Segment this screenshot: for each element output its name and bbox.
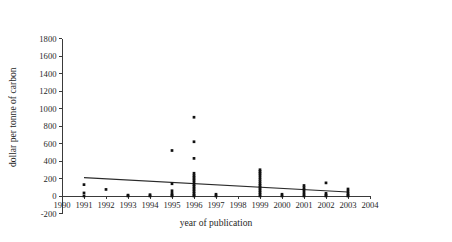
y-axis-title: dollar per tonne of carbon (7, 67, 18, 167)
data-point (347, 195, 350, 198)
data-point (325, 182, 328, 185)
x-axis-title: year of publication (180, 217, 253, 228)
x-tick-label: 1991 (75, 200, 92, 210)
y-tick-label: -200 (41, 209, 57, 219)
data-point (127, 195, 130, 198)
y-tick-label: 1800 (39, 34, 56, 44)
x-tick-label: 1996 (185, 200, 203, 210)
x-tick-label: 2000 (273, 200, 290, 210)
y-tick-label: 1200 (39, 86, 56, 96)
data-point (171, 182, 174, 185)
regression-line (84, 178, 348, 192)
data-point (83, 195, 86, 198)
data-point (193, 157, 196, 160)
y-tick-label: 1400 (39, 69, 56, 79)
data-point (171, 149, 174, 152)
data-point (171, 189, 174, 192)
trend-line (84, 178, 348, 192)
x-tick-label: 2004 (361, 200, 379, 210)
y-tick-label: 800 (44, 121, 57, 131)
x-tick-label: 1993 (119, 200, 136, 210)
x-tick-label: 1992 (97, 200, 114, 210)
data-point (83, 183, 86, 186)
data-point (193, 140, 196, 143)
data-point (215, 195, 218, 198)
x-tick-label: 1995 (163, 200, 180, 210)
y-tick-label: 400 (44, 156, 57, 166)
data-point (281, 195, 284, 198)
data-point (171, 195, 174, 198)
scatter-chart: -200020040060080010001200140016001800 19… (0, 0, 452, 242)
y-axis: -200020040060080010001200140016001800 (39, 34, 62, 219)
data-point (193, 195, 196, 198)
data-point (83, 192, 86, 195)
data-point (105, 188, 108, 191)
data-point (193, 116, 196, 119)
data-point (325, 195, 328, 198)
y-tick-label: 1000 (39, 104, 56, 114)
x-tick-label: 2001 (295, 200, 312, 210)
x-tick-label: 1994 (141, 200, 159, 210)
y-tick-label: 1600 (39, 51, 56, 61)
x-tick-label: 1999 (251, 200, 268, 210)
data-point (303, 195, 306, 198)
x-tick-label: 1998 (229, 200, 246, 210)
x-tick-label: 1997 (207, 200, 225, 210)
plot-area: -200020040060080010001200140016001800 19… (0, 0, 452, 242)
data-point (259, 195, 262, 198)
y-tick-label: 200 (44, 174, 57, 184)
data-point (149, 195, 152, 198)
x-axis: 1990199119921993199419951996199719981999… (53, 196, 379, 210)
x-tick-label: 2002 (317, 200, 334, 210)
y-tick-label: 600 (44, 139, 57, 149)
x-tick-label: 2003 (339, 200, 356, 210)
x-tick-label: 1990 (53, 200, 70, 210)
